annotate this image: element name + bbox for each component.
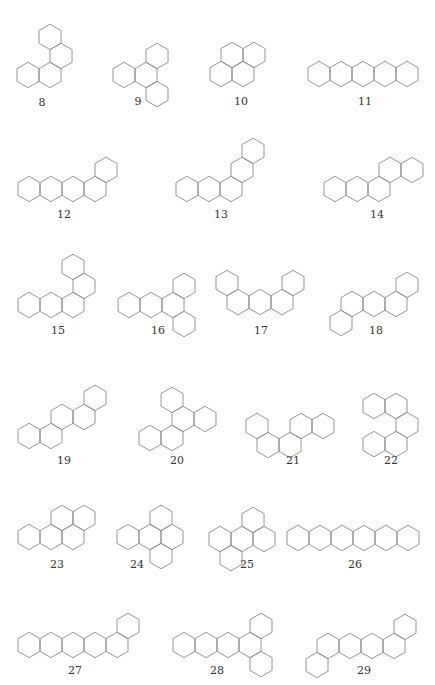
hexagon-ring	[39, 24, 61, 49]
structure-label: 24	[130, 559, 144, 570]
hexagon-ring	[242, 507, 264, 532]
hexagon-ring	[161, 387, 183, 412]
hexagon-ring	[51, 505, 73, 530]
structure-27	[18, 613, 139, 657]
hexagon-ring	[379, 157, 401, 182]
hexagon-ring	[250, 651, 272, 676]
hexagon-ring	[306, 652, 328, 677]
hexagon-ring	[172, 406, 194, 431]
structure-label: 27	[68, 665, 82, 676]
hexagon-ring	[84, 632, 106, 657]
structure-19	[18, 385, 106, 449]
structure-21	[246, 413, 334, 457]
hexagon-ring	[250, 613, 272, 638]
hexagon-ring	[150, 543, 172, 568]
hexagon-ring	[385, 291, 407, 316]
hexagon-ring	[161, 425, 183, 450]
hexagon-ring	[162, 292, 184, 317]
structure-8	[17, 24, 72, 87]
hexagon-ring	[397, 525, 419, 550]
structure-17	[216, 270, 304, 314]
structure-10	[210, 42, 265, 86]
hexagon-ring	[227, 289, 249, 314]
hexagon-ring	[195, 632, 217, 657]
structure-label: 17	[254, 325, 268, 336]
structure-label: 11	[358, 96, 372, 107]
hexagon-ring	[253, 526, 275, 551]
hexagon-ring	[146, 43, 168, 68]
hexagon-ring	[394, 614, 416, 639]
hexagon-ring	[84, 385, 106, 410]
hexagon-ring	[375, 525, 397, 550]
structure-20	[139, 387, 216, 451]
hexagon-ring	[50, 43, 72, 68]
hexagon-ring	[231, 157, 253, 182]
hexagon-ring	[62, 524, 84, 549]
hexagon-ring	[331, 525, 353, 550]
hexagon-ring	[257, 432, 279, 457]
hexagon-ring	[339, 633, 361, 658]
structure-14	[324, 157, 423, 201]
structure-label: 26	[348, 559, 362, 570]
hexagon-ring	[135, 62, 157, 87]
hexagon-ring	[40, 176, 62, 201]
hexagon-ring	[176, 176, 198, 201]
structure-label: 21	[286, 455, 300, 466]
hexagon-ring	[140, 292, 162, 317]
structure-24	[117, 505, 183, 569]
structure-11	[308, 61, 418, 86]
structure-label: 10	[234, 96, 248, 107]
hexagon-ring	[39, 62, 61, 87]
structure-label: 12	[57, 209, 71, 220]
hexagon-ring	[106, 632, 128, 657]
hexagon-ring	[385, 393, 407, 418]
hexagon-ring	[73, 505, 95, 530]
hexagon-ring	[40, 632, 62, 657]
hexagon-ring	[40, 524, 62, 549]
hexagon-ring	[290, 413, 312, 438]
hexagon-ring	[146, 81, 168, 106]
structure-label: 14	[370, 209, 384, 220]
structure-label: 20	[170, 455, 184, 466]
hexagon-ring	[361, 633, 383, 658]
hexagon-ring	[363, 393, 385, 418]
hexagon-ring	[396, 61, 418, 86]
hexagon-ring	[62, 292, 84, 317]
structure-label: 18	[369, 325, 383, 336]
structure-label: 28	[210, 665, 224, 676]
hexagon-ring	[374, 61, 396, 86]
hexagon-ring	[352, 61, 374, 86]
hexagon-ring	[220, 176, 242, 201]
hexagon-ring	[73, 273, 95, 298]
hexagon-ring	[308, 61, 330, 86]
hexagon-ring	[282, 270, 304, 295]
hexagon-ring	[324, 176, 346, 201]
hexagon-ring	[17, 62, 39, 87]
hexagon-ring	[231, 526, 253, 551]
hexagon-ring	[341, 291, 363, 316]
hexagon-ring	[113, 62, 135, 87]
hexagon-ring	[242, 138, 264, 163]
structure-label: 29	[357, 665, 371, 676]
hexagon-ring	[401, 157, 423, 182]
structure-23	[18, 505, 95, 549]
hexagon-ring	[309, 525, 331, 550]
hexagon-ring	[221, 42, 243, 67]
hexagon-ring	[173, 632, 195, 657]
hexagon-ring	[84, 176, 106, 201]
hexagon-ring	[363, 431, 385, 456]
structure-label: 15	[51, 325, 65, 336]
hexagon-ring	[18, 176, 40, 201]
hexagon-ring	[73, 404, 95, 429]
hexagon-ring	[346, 176, 368, 201]
hexagon-ring	[40, 423, 62, 448]
hexagon-ring	[363, 291, 385, 316]
hexagon-ring	[95, 157, 117, 182]
hexagon-ring	[18, 632, 40, 657]
structure-label: 19	[57, 455, 71, 466]
hexagon-ring	[210, 61, 232, 86]
structure-label: 25	[240, 559, 254, 570]
hexagon-ring	[139, 524, 161, 549]
hexagon-ring	[243, 42, 265, 67]
hexagon-ring	[287, 525, 309, 550]
